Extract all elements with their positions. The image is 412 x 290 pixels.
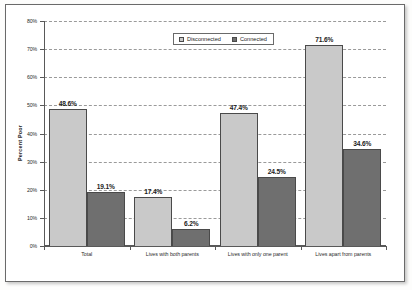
bar-groups: 48.6%19.1%17.4%6.2%47.4%24.5%71.6%34.6%	[44, 21, 386, 246]
scanned-page: Disconnected Connected Percent Poor 0%10…	[0, 0, 412, 290]
bar-disconnected-3[interactable]	[305, 45, 343, 246]
x-tick	[130, 246, 131, 250]
bar-connected-2[interactable]	[258, 177, 296, 246]
x-category-label: Lives with both parents	[130, 251, 216, 257]
legend-item-disconnected: Disconnected	[179, 36, 221, 42]
chart-figure-frame: Disconnected Connected Percent Poor 0%10…	[5, 4, 405, 282]
x-category-label: Total	[44, 251, 130, 257]
bar-disconnected-2[interactable]	[220, 113, 258, 246]
legend-item-connected: Connected	[232, 36, 267, 42]
x-tick	[301, 246, 302, 250]
plot-area: 0%10%20%30%40%50%60%70%80% 48.6%19.1%17.…	[44, 21, 386, 246]
y-tick-label-50%: 50%	[27, 102, 37, 108]
bar-value-label: 17.4%	[144, 188, 162, 195]
y-tick-label-40%: 40%	[27, 131, 37, 137]
bar-disconnected-0[interactable]	[49, 109, 87, 246]
chart-legend: Disconnected Connected	[173, 33, 274, 45]
bar-value-label: 24.5%	[268, 168, 286, 175]
legend-label-disconnected: Disconnected	[187, 36, 221, 42]
x-tick	[44, 246, 45, 250]
y-tick-label-60%: 60%	[27, 74, 37, 80]
bar-connected-1[interactable]	[172, 229, 210, 246]
bar-value-label: 48.6%	[59, 100, 77, 107]
y-tick-label-0%: 0%	[30, 243, 37, 249]
y-tick-label-70%: 70%	[27, 46, 37, 52]
bar-group: 48.6%19.1%	[44, 21, 130, 246]
x-tick	[386, 246, 387, 250]
bar-wrap: 6.2%	[172, 229, 210, 246]
bar-wrap: 34.6%	[343, 149, 381, 246]
bar-value-label: 47.4%	[230, 104, 248, 111]
legend-swatch-disconnected	[179, 37, 184, 42]
x-axis-labels: TotalLives with both parentsLives with o…	[44, 251, 386, 257]
bar-group: 71.6%34.6%	[301, 21, 387, 246]
bar-value-label: 6.2%	[184, 220, 199, 227]
bar-wrap: 24.5%	[258, 177, 296, 246]
bar-group: 17.4%6.2%	[130, 21, 216, 246]
bar-wrap: 19.1%	[87, 192, 125, 246]
bar-group: 47.4%24.5%	[215, 21, 301, 246]
bar-wrap: 47.4%	[220, 113, 258, 246]
bar-value-label: 34.6%	[353, 140, 371, 147]
bar-value-label: 71.6%	[315, 36, 333, 43]
y-tick-label-10%: 10%	[27, 215, 37, 221]
y-tick-label-20%: 20%	[27, 187, 37, 193]
bar-wrap: 71.6%	[305, 45, 343, 246]
y-tick-label-80%: 80%	[27, 18, 37, 24]
legend-label-connected: Connected	[240, 36, 267, 42]
bar-wrap: 17.4%	[134, 197, 172, 246]
x-category-label: Lives with only one parent	[215, 251, 301, 257]
bar-wrap: 48.6%	[49, 109, 87, 246]
legend-swatch-connected	[232, 37, 237, 42]
y-axis-title: Percent Poor	[17, 125, 23, 161]
bar-connected-0[interactable]	[87, 192, 125, 246]
y-tick-label-30%: 30%	[27, 159, 37, 165]
bar-disconnected-1[interactable]	[134, 197, 172, 246]
bar-value-label: 19.1%	[97, 183, 115, 190]
x-tick	[215, 246, 216, 250]
x-category-label: Lives apart from parents	[301, 251, 387, 257]
bar-connected-3[interactable]	[343, 149, 381, 246]
